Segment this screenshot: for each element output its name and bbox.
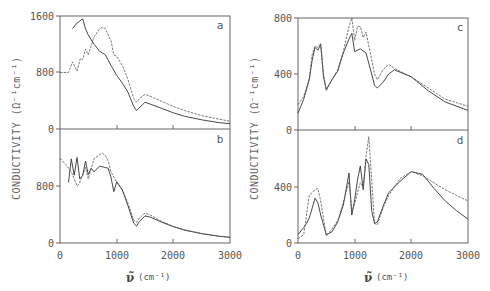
y-axis-label-right: CONDUCTIVITY (Ω⁻¹cm⁻¹) xyxy=(249,57,260,200)
xtick-3000: 3000 xyxy=(456,250,480,261)
ytick-c-0: 0 xyxy=(286,125,292,136)
panel-label-a: a xyxy=(217,19,224,32)
x-axis-symbol-left: ν̃ xyxy=(126,271,134,285)
ytick-b-800: 800 xyxy=(36,181,54,192)
ytick-d-0: 0 xyxy=(286,238,292,249)
right-frame xyxy=(298,18,468,243)
panel-a-solid-curve xyxy=(73,19,231,124)
panel-b-dashed-curve xyxy=(60,153,230,237)
ytick-c-800: 800 xyxy=(274,13,292,24)
x-axis-unit-left: (cm⁻¹) xyxy=(138,272,171,282)
ytick-a-0: 0 xyxy=(48,124,54,135)
panel-c-dashed-curve xyxy=(298,18,468,106)
xtick-3000: 3000 xyxy=(218,250,242,261)
ytick-c-400: 400 xyxy=(274,69,292,80)
ytick-a-1600: 1600 xyxy=(30,11,54,22)
x-axis-symbol-right: ν̃ xyxy=(364,271,372,285)
ytick-b-0: 0 xyxy=(48,238,54,249)
xtick-0: 0 xyxy=(57,250,63,261)
x-axis-unit-right: (cm⁻¹) xyxy=(376,272,409,282)
xtick-2000: 2000 xyxy=(161,250,185,261)
ytick-a-800: 800 xyxy=(36,67,54,78)
panel-a-dashed-curve xyxy=(60,27,230,121)
panel-label-d: d xyxy=(457,134,464,147)
left-column: 1600 800 0 800 0 0 1000 2000 3000 a b xyxy=(30,11,242,261)
ytick-d-400: 400 xyxy=(274,182,292,193)
conductivity-figure: 1600 800 0 800 0 0 1000 2000 3000 a b 80… xyxy=(0,0,490,291)
panel-label-b: b xyxy=(217,133,224,146)
xtick-0: 0 xyxy=(295,250,301,261)
panel-d-solid-curve xyxy=(298,159,468,235)
xtick-1000: 1000 xyxy=(105,250,129,261)
y-axis-label-left: CONDUCTIVITY (Ω⁻¹cm⁻¹) xyxy=(11,57,22,200)
right-column: 800 400 0 400 0 0 1000 2000 3000 c d xyxy=(274,13,480,261)
xtick-1000: 1000 xyxy=(343,250,367,261)
panel-label-c: c xyxy=(457,21,464,34)
panel-b-solid-curve xyxy=(69,158,231,238)
xtick-2000: 2000 xyxy=(399,250,423,261)
